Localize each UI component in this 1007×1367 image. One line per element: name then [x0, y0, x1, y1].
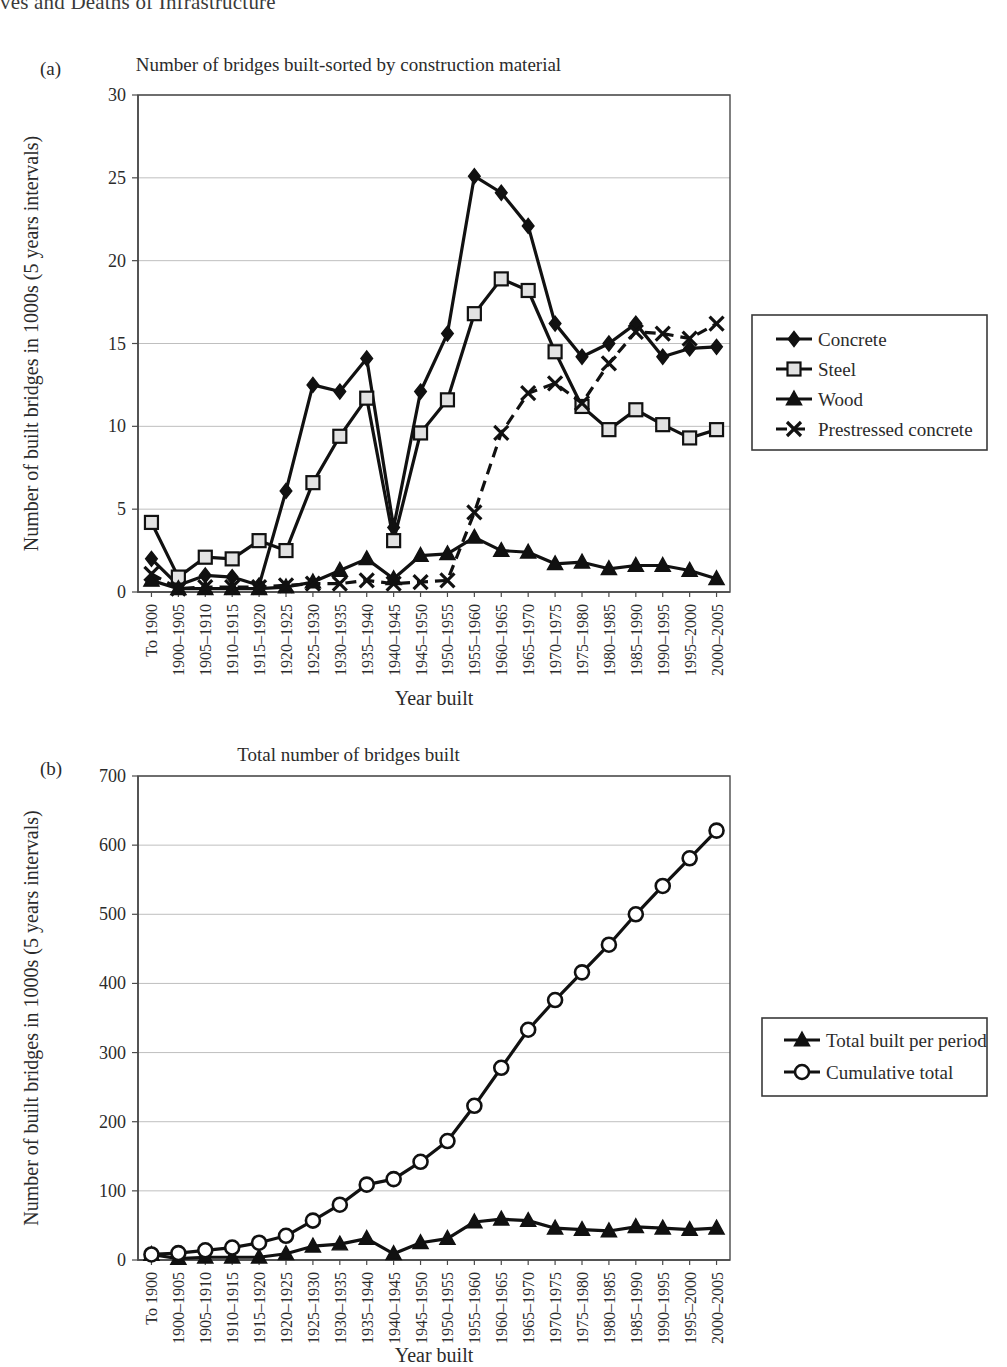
- data-point-marker: [280, 483, 292, 498]
- data-point-marker: [306, 476, 319, 489]
- chart-b-svg: 0100200300400500600700To 19001900–190519…: [0, 730, 1007, 1367]
- data-point-marker: [602, 938, 616, 952]
- data-point-marker: [253, 534, 266, 547]
- data-point-marker: [307, 377, 319, 392]
- data-point-marker: [359, 1231, 374, 1245]
- x-axis: To 19001900–19051905–19101910–19151915–1…: [143, 592, 725, 676]
- x-tick-label: 1995–2000: [682, 1272, 699, 1344]
- legend-item-label: Cumulative total: [826, 1062, 953, 1083]
- x-tick-label: 1925–1930: [305, 1272, 322, 1344]
- x-tick-label: 1975–1980: [574, 604, 591, 676]
- x-tick-label: 1965–1970: [520, 1272, 537, 1344]
- page-header: ves and Deaths of Infrastructure: [0, 0, 276, 15]
- plot-frame: [138, 776, 730, 1260]
- data-point-marker: [521, 386, 535, 400]
- x-tick-label: 1900–1905: [170, 1272, 187, 1344]
- x-tick-label: 1940–1945: [386, 1272, 403, 1344]
- x-tick-label: 2000–2005: [709, 604, 726, 676]
- x-tick-label: 1985–1990: [628, 604, 645, 676]
- x-tick-label: 1970–1975: [547, 604, 564, 676]
- data-point-marker: [629, 907, 643, 921]
- x-tick-label: 1955–1960: [466, 604, 483, 676]
- data-point-marker: [467, 1099, 481, 1113]
- data-point-marker: [440, 1231, 455, 1245]
- chart-a-svg: 051015202530To 19001900–19051905–1910191…: [0, 40, 1007, 720]
- data-point-marker: [252, 1236, 266, 1250]
- data-point-marker: [144, 1247, 158, 1261]
- x-tick-label: 1925–1930: [305, 604, 322, 676]
- data-point-marker: [656, 418, 669, 431]
- data-point-marker: [603, 336, 615, 351]
- x-tick-label: 1905–1910: [197, 1272, 214, 1344]
- data-point-marker: [280, 544, 293, 557]
- legend-item-label: Wood: [818, 389, 863, 410]
- x-tick-label: 1995–2000: [682, 604, 699, 676]
- gridlines: [138, 95, 730, 509]
- x-tick-label: 1950–1955: [439, 1272, 456, 1344]
- data-point-marker: [306, 1214, 320, 1228]
- data-point-marker: [279, 1229, 293, 1243]
- y-tick-label: 30: [108, 85, 126, 105]
- data-point-marker: [440, 1134, 454, 1148]
- data-point-marker: [522, 284, 535, 297]
- x-tick-label: 1980–1985: [601, 604, 618, 676]
- axis-titles: Year builtNumber of built bridges in 100…: [20, 810, 474, 1366]
- legend-item-label: Steel: [818, 359, 856, 380]
- x-tick-label: 1915–1920: [251, 1272, 268, 1344]
- axis-titles: Year builtNumber of built bridges in 100…: [20, 136, 474, 709]
- x-axis-title: Year built: [395, 687, 474, 709]
- data-point-marker: [359, 551, 374, 565]
- x-tick-label: 1930–1935: [332, 1272, 349, 1344]
- chart-legend: Total built per periodCumulative total: [762, 1018, 987, 1096]
- data-point-marker: [171, 1246, 185, 1260]
- data-point-marker: [387, 534, 400, 547]
- data-point-marker: [710, 824, 724, 838]
- data-point-marker: [468, 307, 481, 320]
- data-point-marker: [387, 1172, 401, 1186]
- legend-item-label: Total built per period: [826, 1030, 987, 1051]
- data-point-marker: [795, 1065, 809, 1079]
- data-point-marker: [225, 1241, 239, 1255]
- x-tick-label: 1990–1995: [655, 604, 672, 676]
- x-tick-label: 1915–1920: [251, 604, 268, 676]
- series-path: [151, 176, 716, 585]
- data-point-marker: [360, 392, 373, 405]
- x-tick-label: 1935–1940: [359, 1272, 376, 1344]
- y-tick-label: 15: [108, 334, 126, 354]
- x-tick-label: 1950–1955: [439, 604, 456, 676]
- x-tick-label: 1945–1950: [413, 604, 430, 676]
- x-tick-label: 1945–1950: [413, 1272, 430, 1344]
- x-tick-label: 2000–2005: [709, 1272, 726, 1344]
- x-tick-label: 1955–1960: [466, 1272, 483, 1344]
- x-tick-label: 1905–1910: [197, 604, 214, 676]
- data-point-marker: [414, 1155, 428, 1169]
- x-tick-label: 1960–1965: [493, 1272, 510, 1344]
- legend-item-label: Prestressed concrete: [818, 419, 973, 440]
- x-tick-label: 1910–1915: [224, 1272, 241, 1344]
- y-tick-label: 10: [108, 416, 126, 436]
- data-point-marker: [548, 376, 562, 390]
- x-tick-label: 1960–1965: [493, 604, 510, 676]
- x-tick-label: To 1900: [143, 1272, 160, 1325]
- y-tick-label: 200: [99, 1112, 126, 1132]
- x-tick-label: 1940–1945: [386, 604, 403, 676]
- data-point-marker: [575, 965, 589, 979]
- series-total-built-per-period: [144, 1211, 724, 1264]
- data-point-marker: [549, 345, 562, 358]
- y-tick-label: 25: [108, 168, 126, 188]
- x-tick-label: 1980–1985: [601, 1272, 618, 1344]
- x-tick-label: 1910–1915: [224, 604, 241, 676]
- y-tick-label: 20: [108, 251, 126, 271]
- x-axis: To 19001900–19051905–19101910–19151915–1…: [143, 1260, 725, 1344]
- data-point-marker: [629, 403, 642, 416]
- data-point-marker: [521, 1023, 535, 1037]
- x-tick-label: 1935–1940: [359, 604, 376, 676]
- chart-b-canvas: 0100200300400500600700To 19001900–190519…: [0, 730, 1007, 1367]
- x-tick-label: 1920–1925: [278, 1272, 295, 1344]
- data-point-marker: [414, 426, 427, 439]
- data-point-marker: [656, 879, 670, 893]
- x-tick-label: 1930–1935: [332, 604, 349, 676]
- y-tick-label: 0: [117, 582, 126, 602]
- data-point-marker: [683, 851, 697, 865]
- y-tick-label: 100: [99, 1181, 126, 1201]
